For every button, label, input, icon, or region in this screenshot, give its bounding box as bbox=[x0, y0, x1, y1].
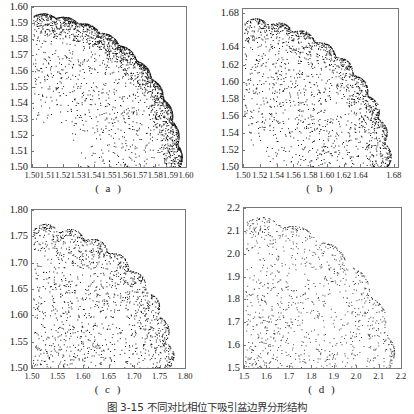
y-tick-label: 1.64 bbox=[209, 42, 239, 52]
y-tick-mark bbox=[243, 231, 246, 232]
y-tick-label: 1.55 bbox=[0, 337, 28, 347]
x-tick-label: 1.64 bbox=[348, 171, 372, 180]
y-tick-label: 1.56 bbox=[0, 66, 28, 76]
x-tick-mark bbox=[356, 365, 357, 368]
y-tick-mark bbox=[243, 299, 246, 300]
y-tick-label: 2.0 bbox=[210, 249, 240, 259]
x-tick-mark bbox=[63, 164, 64, 167]
y-tick-label: 1.60 bbox=[0, 310, 28, 320]
y-tick-label: 1.52 bbox=[0, 130, 28, 140]
x-tick-mark bbox=[327, 164, 328, 167]
y-tick-label: 1.53 bbox=[0, 114, 28, 124]
x-tick-label: 1.68 bbox=[382, 171, 406, 180]
panel-label-c: ( c ) bbox=[89, 383, 129, 395]
x-tick-mark bbox=[160, 365, 161, 368]
x-tick-label: 1.75 bbox=[148, 372, 172, 381]
x-tick-mark bbox=[311, 365, 312, 368]
x-tick-mark bbox=[401, 365, 402, 368]
y-tick-mark bbox=[243, 277, 246, 278]
x-tick-label: 2.2 bbox=[389, 372, 413, 381]
y-tick-mark bbox=[31, 315, 34, 316]
y-tick-label: 1.56 bbox=[209, 111, 239, 121]
y-tick-mark bbox=[31, 71, 34, 72]
x-tick-mark bbox=[124, 164, 125, 167]
y-tick-mark bbox=[31, 263, 34, 264]
y-tick-mark bbox=[243, 368, 246, 369]
x-tick-mark bbox=[47, 164, 48, 167]
x-tick-mark bbox=[186, 164, 187, 167]
y-tick-label: 1.80 bbox=[0, 205, 28, 215]
y-tick-label: 1.68 bbox=[209, 8, 239, 18]
x-tick-mark bbox=[109, 365, 110, 368]
y-tick-label: 1.65 bbox=[0, 284, 28, 294]
y-tick-label: 1.6 bbox=[210, 340, 240, 350]
x-tick-mark bbox=[266, 365, 267, 368]
scatter-points bbox=[32, 7, 187, 168]
x-tick-label: 1.60 bbox=[71, 372, 95, 381]
y-tick-mark bbox=[242, 47, 245, 48]
y-tick-mark bbox=[31, 103, 34, 104]
panel-label-a: ( a ) bbox=[89, 182, 129, 194]
y-tick-label: 1.70 bbox=[0, 258, 28, 268]
x-tick-mark bbox=[94, 164, 95, 167]
x-tick-mark bbox=[260, 164, 261, 167]
x-tick-mark bbox=[134, 365, 135, 368]
y-tick-mark bbox=[243, 322, 246, 323]
y-tick-mark bbox=[31, 236, 34, 237]
x-tick-mark bbox=[334, 365, 335, 368]
y-tick-mark bbox=[31, 167, 34, 168]
y-tick-mark bbox=[31, 135, 34, 136]
y-tick-mark bbox=[31, 39, 34, 40]
y-tick-label: 1.57 bbox=[0, 50, 28, 60]
x-tick-label: 1.6 bbox=[254, 372, 278, 381]
y-tick-mark bbox=[242, 65, 245, 66]
y-tick-label: 1.59 bbox=[0, 18, 28, 28]
y-tick-mark bbox=[243, 208, 246, 209]
y-tick-mark bbox=[31, 87, 34, 88]
y-tick-mark bbox=[31, 7, 34, 8]
y-tick-label: 1.55 bbox=[0, 82, 28, 92]
y-tick-label: 1.62 bbox=[209, 60, 239, 70]
x-tick-label: 1.60 bbox=[174, 171, 198, 180]
x-tick-mark bbox=[277, 164, 278, 167]
x-tick-mark bbox=[243, 164, 244, 167]
x-tick-label: 2.0 bbox=[344, 372, 368, 381]
y-tick-label: 1.54 bbox=[209, 128, 239, 138]
x-tick-mark bbox=[171, 164, 172, 167]
scatter-points bbox=[32, 210, 186, 369]
x-tick-mark bbox=[394, 164, 395, 167]
panel-label-b: ( b ) bbox=[301, 182, 341, 194]
y-tick-mark bbox=[243, 254, 246, 255]
x-tick-mark bbox=[344, 164, 345, 167]
x-tick-mark bbox=[58, 365, 59, 368]
x-tick-label: 2.1 bbox=[367, 372, 391, 381]
x-tick-label: 1.5 bbox=[232, 372, 256, 381]
y-tick-label: 1.60 bbox=[209, 77, 239, 87]
y-tick-mark bbox=[31, 289, 34, 290]
x-tick-label: 1.9 bbox=[322, 372, 346, 381]
scatter-points bbox=[244, 208, 402, 369]
panel-label-d: ( d ) bbox=[303, 383, 343, 395]
y-tick-mark bbox=[31, 210, 34, 211]
x-tick-mark bbox=[83, 365, 84, 368]
x-tick-mark bbox=[155, 164, 156, 167]
y-tick-label: 1.58 bbox=[0, 34, 28, 44]
y-tick-mark bbox=[242, 167, 245, 168]
x-tick-mark bbox=[379, 365, 380, 368]
y-tick-label: 1.7 bbox=[210, 317, 240, 327]
y-tick-label: 1.60 bbox=[0, 2, 28, 12]
x-tick-mark bbox=[244, 365, 245, 368]
x-tick-mark bbox=[185, 365, 186, 368]
x-tick-mark bbox=[78, 164, 79, 167]
x-tick-mark bbox=[109, 164, 110, 167]
y-tick-label: 1.54 bbox=[0, 98, 28, 108]
y-tick-label: 1.75 bbox=[0, 231, 28, 241]
y-tick-mark bbox=[242, 133, 245, 134]
y-tick-mark bbox=[31, 23, 34, 24]
x-tick-mark bbox=[32, 365, 33, 368]
x-tick-label: 1.65 bbox=[97, 372, 121, 381]
plot-area-d bbox=[243, 207, 402, 369]
scatter-points bbox=[243, 9, 399, 168]
plot-area-c bbox=[31, 209, 186, 369]
x-tick-mark bbox=[310, 164, 311, 167]
